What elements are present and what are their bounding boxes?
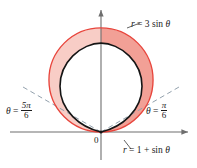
label-origin: 0 bbox=[94, 136, 99, 145]
origin-cusp-point bbox=[100, 131, 103, 134]
label-theta-right-denominator: 6 bbox=[161, 111, 168, 120]
label-theta-left-fraction: 5π6 bbox=[21, 101, 32, 120]
label-theta-right-fraction: π6 bbox=[161, 101, 168, 120]
label-theta-left-denominator: 6 bbox=[21, 111, 32, 120]
label-theta-left-equals: = bbox=[11, 106, 21, 116]
label-circle-eq: = 3 sin bbox=[135, 19, 166, 29]
label-theta-5pi-over-6: θ = 5π6 bbox=[6, 101, 32, 120]
label-circle-equation: r = 3 sin θ bbox=[131, 20, 170, 30]
label-theta-right-equals: = bbox=[151, 106, 161, 116]
label-cardioid-theta: θ bbox=[165, 145, 170, 155]
label-circle-theta: θ bbox=[165, 19, 170, 29]
label-theta-pi-over-6: θ = π6 bbox=[146, 101, 167, 120]
polar-graph-figure: r = 3 sin θ r = 1 + sin θ θ = 5π6 θ = π6… bbox=[0, 0, 197, 168]
label-cardioid-eq: = 1 + sin bbox=[127, 145, 165, 155]
label-cardioid-equation: r = 1 + sin θ bbox=[123, 146, 170, 156]
